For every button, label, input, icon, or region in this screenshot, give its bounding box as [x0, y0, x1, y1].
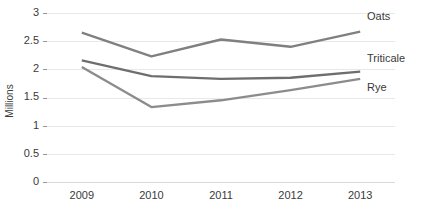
- x-axis-tick-label: 2009: [70, 189, 94, 201]
- y-axis-tick-label: 0.5: [24, 147, 39, 159]
- y-axis-tick-label: 2: [33, 62, 39, 74]
- series-labels: OatsTriticaleRye: [367, 10, 405, 93]
- y-axis-ticks: [43, 14, 47, 183]
- x-axis-tick-label: 2013: [348, 189, 372, 201]
- x-axis-tick-label: 2010: [139, 189, 163, 201]
- line-chart: 00.511.522.53 20092010201120122013 OatsT…: [0, 0, 423, 215]
- y-axis-tick-label: 1: [33, 119, 39, 131]
- series-line-rye: [82, 67, 360, 107]
- series-label-oats: Oats: [367, 10, 391, 22]
- y-axis-title: Millions: [4, 84, 15, 117]
- series-label-rye: Rye: [367, 81, 387, 93]
- y-axis-tick-label: 2.5: [24, 34, 39, 46]
- x-axis-tick-label: 2011: [209, 189, 233, 201]
- x-axis-tick-labels: 20092010201120122013: [70, 189, 373, 201]
- x-axis-tick-label: 2012: [278, 189, 302, 201]
- chart-canvas: 00.511.522.53 20092010201120122013 OatsT…: [0, 0, 423, 215]
- y-axis-tick-label: 0: [33, 175, 39, 187]
- y-axis-tick-labels: 00.511.522.53: [24, 6, 39, 187]
- y-axis-tick-label: 1.5: [24, 90, 39, 102]
- series-line-oats: [82, 32, 360, 57]
- y-axis-tick-label: 3: [33, 6, 39, 18]
- series-label-triticale: Triticale: [367, 52, 405, 64]
